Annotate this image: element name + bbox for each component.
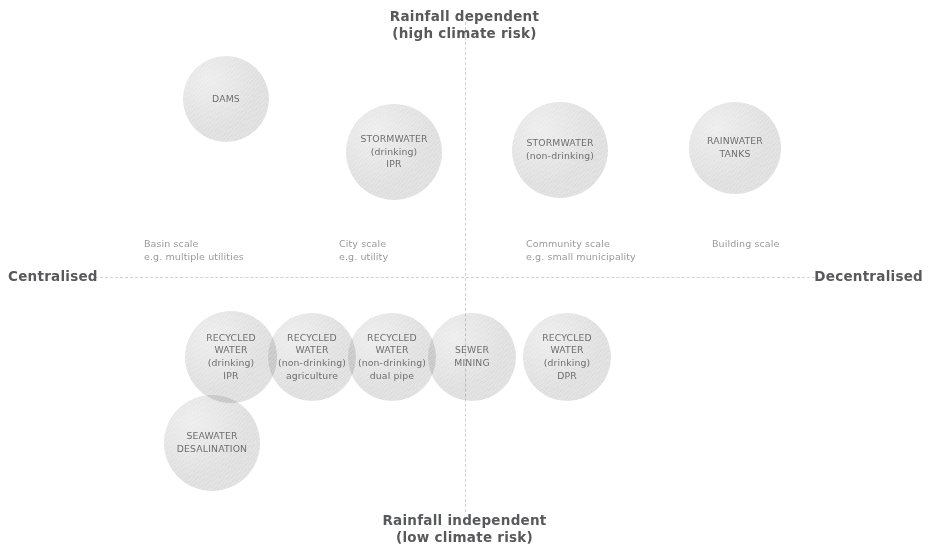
axis-label-left: Centralised bbox=[8, 268, 98, 285]
bubble-label: SEWER MINING bbox=[454, 344, 490, 369]
bubble-label: RECYCLED WATER (non-drinking) dual pipe bbox=[358, 332, 426, 382]
bubble-label: SEAWATER DESALINATION bbox=[177, 430, 247, 455]
bubble-label: RECYCLED WATER (non-drinking) agricultur… bbox=[278, 332, 346, 382]
scale-label: City scale e.g. utility bbox=[339, 238, 388, 263]
bubble-rainwater: RAINWATER TANKS bbox=[689, 102, 781, 194]
bubble-stormwater: STORMWATER (non-drinking) bbox=[512, 102, 608, 198]
bubble-recycled: RECYCLED WATER (drinking) DPR bbox=[523, 313, 611, 401]
scale-label: Basin scale e.g. multiple utilities bbox=[144, 238, 244, 263]
bubble-label: RECYCLED WATER (drinking) DPR bbox=[542, 332, 592, 382]
bubble-label: STORMWATER (non-drinking) bbox=[526, 137, 594, 162]
bubble-label: RECYCLED WATER (drinking) IPR bbox=[206, 332, 256, 382]
vertical-axis-line bbox=[465, 22, 466, 512]
bubble-recycled: RECYCLED WATER (non-drinking) agricultur… bbox=[268, 313, 356, 401]
bubble-recycled: RECYCLED WATER (drinking) IPR bbox=[185, 311, 277, 403]
axis-label-bottom: Rainfall independent (low climate risk) bbox=[0, 512, 929, 546]
bubble-dams: DAMS bbox=[183, 56, 269, 142]
bubble-label: RAINWATER TANKS bbox=[707, 135, 763, 160]
diagram-canvas: Rainfall dependent (high climate risk) R… bbox=[0, 0, 929, 550]
bubble-sewer: SEWER MINING bbox=[428, 313, 516, 401]
axis-label-top: Rainfall dependent (high climate risk) bbox=[0, 8, 929, 42]
axis-label-right: Decentralised bbox=[814, 268, 923, 285]
scale-label: Community scale e.g. small municipality bbox=[526, 238, 636, 263]
bubble-seawater: SEAWATER DESALINATION bbox=[164, 395, 260, 491]
bubble-label: DAMS bbox=[212, 93, 240, 106]
bubble-label: STORMWATER (drinking) IPR bbox=[360, 133, 427, 171]
bubble-recycled: RECYCLED WATER (non-drinking) dual pipe bbox=[348, 313, 436, 401]
bubble-stormwater: STORMWATER (drinking) IPR bbox=[346, 104, 442, 200]
scale-label: Building scale bbox=[712, 238, 779, 251]
